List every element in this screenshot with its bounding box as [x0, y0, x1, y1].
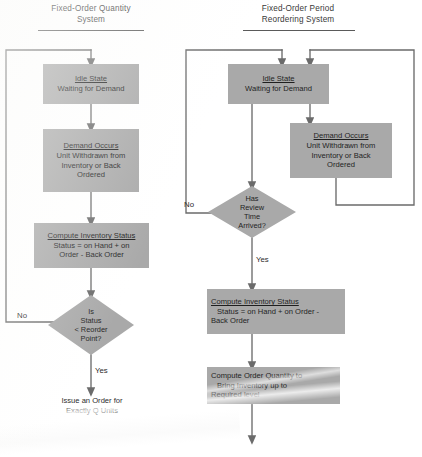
- left-idle-body: Waiting for Demand: [58, 84, 125, 94]
- right-compute-line2: Back Order: [211, 316, 249, 326]
- left-demand-line1: Unit Withdrawn from: [57, 151, 126, 161]
- right-chart-title: Fixed-Order Period Reordering System: [222, 4, 374, 25]
- right-demand-line2: Inventory or Back: [311, 151, 370, 161]
- right-demand-line1: Unit Withdrawn from: [307, 141, 376, 151]
- right-edge-label-no: No: [184, 200, 194, 209]
- left-decision-text: Is Status < Reorder Point?: [48, 295, 134, 355]
- right-node-idle-state: Idle State Waiting for Demand: [228, 64, 329, 104]
- left-node-idle-state: Idle State Waiting for Demand: [43, 64, 139, 104]
- left-decision-line4: Point?: [81, 334, 102, 343]
- left-compute-head: Compute Inventory Status: [48, 231, 136, 241]
- right-demand-head: Demand Occurs: [314, 131, 369, 141]
- left-title-rule: [38, 30, 144, 31]
- left-idle-head: Idle State: [75, 74, 107, 84]
- right-orderqty-line2: Bring Inventory up to: [211, 381, 287, 391]
- right-decision-line4: Arrived?: [238, 221, 266, 230]
- left-demand-head: Demand Occurs: [64, 141, 119, 151]
- left-compute-line2: Order - Back Order: [59, 250, 124, 260]
- right-node-compute-order-quantity: Compute Order Quantity to Bring Inventor…: [207, 367, 340, 404]
- left-compute-line1: Status = on Hand + on: [54, 241, 130, 251]
- left-edge-label-yes: Yes: [95, 366, 108, 375]
- right-decision-line2: Review: [240, 203, 264, 212]
- right-decision-line3: Time: [244, 212, 260, 221]
- left-decision-line3: < Reorder: [74, 325, 107, 334]
- left-node-compute-inventory-status: Compute Inventory Status Status = on Han…: [34, 223, 149, 268]
- left-decision-line1: Is: [88, 307, 94, 316]
- right-compute-line1: Status = on Hand + on Order -: [211, 307, 319, 317]
- right-edge-label-yes: Yes: [256, 255, 269, 264]
- right-idle-head: Idle State: [262, 74, 294, 84]
- right-orderqty-line1: Compute Order Quantity to: [211, 371, 302, 381]
- right-demand-line3: Ordered: [327, 160, 355, 170]
- left-chart-title: Fixed-Order Quantity System: [16, 4, 166, 25]
- left-node-issue-order: Issue an Order for Exactly Q Units: [36, 396, 148, 416]
- left-edge-label-no: No: [17, 311, 27, 320]
- right-decision-line1: Has: [245, 194, 258, 203]
- right-idle-body: Waiting for Demand: [245, 84, 312, 94]
- right-node-decision: Has Review Time Arrived?: [208, 186, 296, 238]
- right-node-demand-occurs: Demand Occurs Unit Withdrawn from Invent…: [290, 123, 392, 178]
- right-compute-head: Compute Inventory Status: [211, 297, 299, 307]
- left-node-decision: Is Status < Reorder Point?: [48, 295, 134, 355]
- right-node-compute-inventory-status: Compute Inventory Status Status = on Han…: [207, 289, 345, 334]
- left-demand-line3: Ordered: [77, 170, 105, 180]
- right-title-rule: [243, 30, 355, 31]
- left-demand-line2: Inventory or Back: [61, 161, 120, 171]
- right-decision-text: Has Review Time Arrived?: [208, 186, 296, 238]
- left-node-demand-occurs: Demand Occurs Unit Withdrawn from Invent…: [43, 129, 139, 192]
- right-orderqty-line3: Required level: [211, 390, 260, 400]
- left-decision-line2: Status: [81, 316, 102, 325]
